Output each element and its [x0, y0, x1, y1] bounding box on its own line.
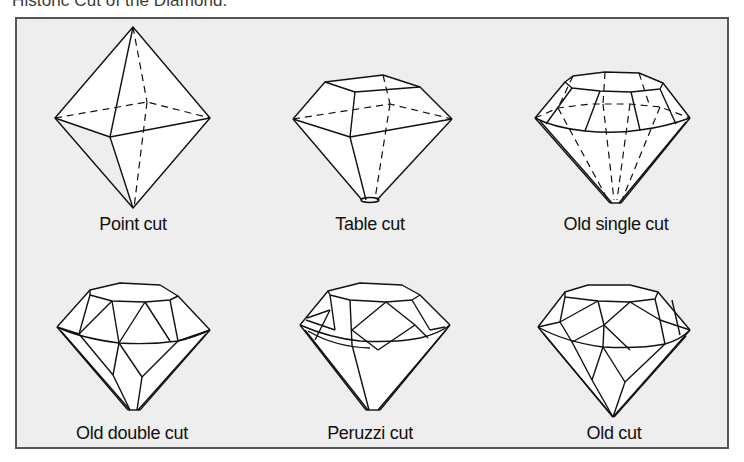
- old-double-cut-diamond-icon: [57, 283, 210, 410]
- old-single-cut-diamond-icon: [535, 72, 690, 203]
- peruzzi-cut-label: Peruzzi cut: [327, 423, 413, 444]
- old-single-cut-label: Old single cut: [564, 214, 669, 235]
- table-cut-diamond-icon: [293, 75, 452, 203]
- table-cut-label: Table cut: [335, 214, 404, 235]
- old-cut-diamond-icon: [538, 285, 690, 417]
- peruzzi-cut-diamond-icon: [300, 283, 450, 410]
- point-cut-diamond-icon: [55, 27, 210, 208]
- point-cut-label: Point cut: [99, 214, 166, 235]
- old-cut-label: Old cut: [587, 423, 642, 444]
- old-double-cut-label: Old double cut: [76, 423, 188, 444]
